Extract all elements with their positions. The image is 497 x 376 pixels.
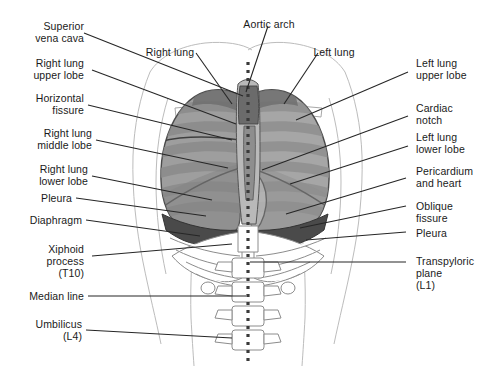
label-superior-vena-cava: Superior vena cava	[4, 20, 84, 44]
label-right-lung-upper-lobe: Right lung upper lobe	[4, 57, 84, 81]
anatomy-diagram: Superior vena cava Right lung upper lobe…	[0, 0, 497, 376]
label-cardiac-notch: Cardiac notch	[416, 102, 496, 126]
label-pleura-left: Pleura	[4, 192, 72, 204]
label-pleura-right: Pleura	[416, 227, 486, 239]
superior-vena-cava-shape	[244, 126, 256, 200]
label-left-lung-upper-lobe: Left lung upper lobe	[416, 57, 496, 81]
label-umbilicus: Umbilicus (L4)	[4, 318, 82, 342]
label-right-lung: Right lung	[138, 46, 202, 58]
label-diaphragm: Diaphragm	[0, 214, 82, 226]
label-aortic-arch: Aortic arch	[236, 18, 302, 30]
label-left-lung: Left lung	[304, 46, 364, 58]
label-horizontal-fissure: Horizontal fissure	[4, 92, 84, 116]
label-left-lung-lower-lobe: Left lung lower lobe	[416, 131, 496, 155]
label-right-lung-middle-lobe: Right lung middle lobe	[0, 127, 92, 151]
label-median-line: Median line	[0, 290, 84, 302]
label-transpyloric-plane: Transpyloric plane (L1)	[416, 255, 497, 292]
label-pericardium-and-heart: Pericardium and heart	[416, 165, 497, 189]
label-oblique-fissure: Oblique fissure	[416, 200, 494, 224]
label-xiphoid-process: Xiphoid process (T10)	[4, 243, 84, 280]
label-right-lung-lower-lobe: Right lung lower lobe	[0, 163, 88, 187]
